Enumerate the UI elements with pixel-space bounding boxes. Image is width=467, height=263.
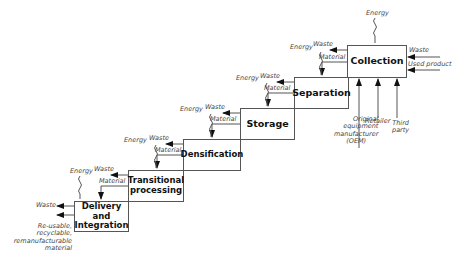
energy-label-delivery: Energy: [70, 168, 93, 175]
energy-label-collection: Energy: [366, 10, 389, 17]
third-party-label: Third party: [392, 120, 409, 135]
stage-storage: Storage: [240, 108, 295, 140]
waste-label-delivery: Waste: [36, 202, 56, 209]
energy-label-storage: Energy: [236, 75, 259, 82]
stage-separation-label: Separation: [292, 88, 351, 99]
retailer-label: Retailer: [365, 118, 390, 125]
stage-delivery-line2: Integration: [75, 221, 129, 231]
material-label-densification: Material: [155, 147, 181, 154]
stage-collection: Collection: [347, 45, 407, 78]
waste-label-transitional: Waste: [94, 166, 114, 173]
waste-input-label: Waste: [409, 47, 429, 54]
energy-label-separation: Energy: [290, 44, 313, 51]
stage-separation: Separation: [294, 77, 349, 109]
waste-label-storage: Waste: [205, 104, 225, 111]
stage-densification-label: Densification: [181, 150, 244, 160]
used-product-label: Used product: [408, 61, 451, 68]
material-label-separation: Material: [264, 85, 290, 92]
waste-label-densification: Waste: [149, 135, 169, 142]
stage-transitional-processing: Transitional processing: [128, 170, 184, 202]
stage-collection-label: Collection: [350, 56, 403, 67]
energy-label-densification: Energy: [180, 106, 203, 113]
reverse-logistics-diagram: Collection Separation Storage Densificat…: [0, 0, 467, 263]
waste-label-separation: Waste: [260, 73, 280, 80]
material-label-transitional: Material: [99, 178, 125, 185]
stage-storage-label: Storage: [246, 119, 288, 130]
waste-label-collection: Waste: [313, 41, 333, 48]
stage-densification: Densification: [183, 139, 241, 171]
output-material-label: Re-usable, recyclable, remanufacturable …: [12, 223, 72, 253]
stage-delivery-line1: Delivery and: [75, 202, 128, 222]
stage-transitional-line2: processing: [130, 186, 182, 196]
material-label-collection: Material: [319, 54, 345, 61]
energy-label-transitional: Energy: [124, 137, 147, 144]
energy-squiggle-collection: [374, 18, 377, 43]
material-label-storage: Material: [210, 116, 236, 123]
stage-delivery-integration: Delivery and Integration: [74, 201, 129, 232]
